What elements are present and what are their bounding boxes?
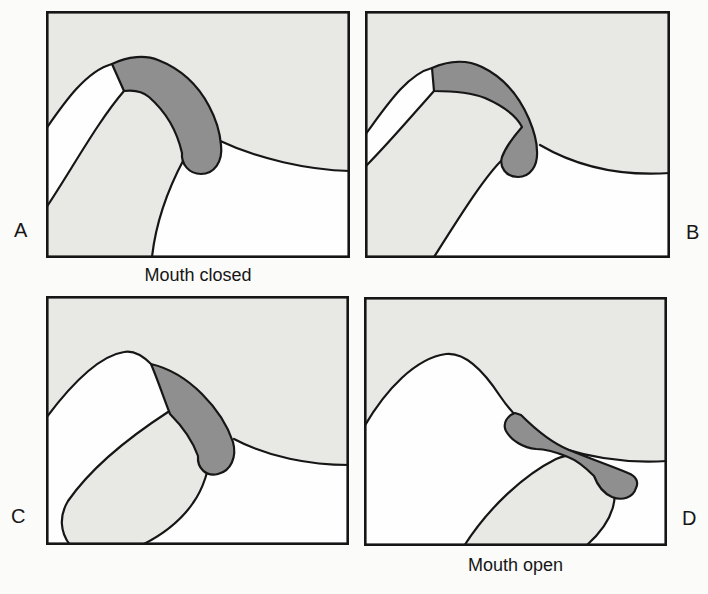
panel-label-a: A: [14, 218, 27, 242]
panel-a-illustration: [46, 11, 350, 258]
panel-label-c: C: [11, 504, 25, 528]
caption-mouth-closed: Mouth closed: [46, 265, 350, 287]
panel-label-b: B: [686, 220, 699, 244]
tmj-diagram-figure: A B C D Mouth closed Mouth open: [0, 0, 708, 594]
caption-mouth-open: Mouth open: [364, 555, 667, 577]
panel-label-d: D: [682, 506, 696, 530]
panel-d-illustration: [364, 297, 667, 546]
panel-b-illustration: [365, 11, 670, 258]
panel-c-illustration: [46, 296, 349, 545]
